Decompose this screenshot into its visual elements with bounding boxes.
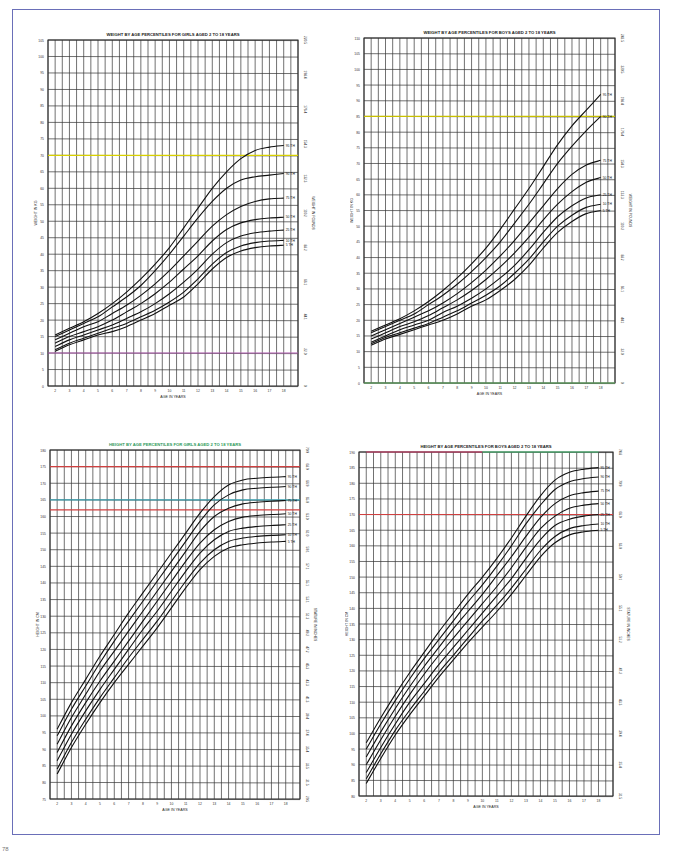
- x-tick-label: 9: [467, 799, 469, 803]
- y-right-tick-label: 88.2: [303, 244, 307, 250]
- chart-boys-weight: WEIGHT BY AGE PERCENTILES FOR BOYS AGED …: [350, 22, 645, 407]
- percentile-label: 10 TH: [603, 202, 613, 206]
- x-tick-label: 15: [553, 799, 557, 803]
- y-right-tick-label: 59.1: [618, 574, 622, 580]
- x-tick-label: 8: [142, 802, 144, 806]
- y-right-tick-label: 154.3: [620, 159, 624, 167]
- y-tick-label: 120: [40, 648, 46, 652]
- x-tick-label: 18: [597, 799, 601, 803]
- x-tick-label: 12: [198, 802, 202, 806]
- y-tick-label: 30: [356, 287, 360, 291]
- y-tick-label: 105: [354, 52, 360, 56]
- percentile-label: 5 TH: [600, 528, 608, 532]
- y-tick-label: 70: [356, 162, 360, 166]
- percentile-label: 95 TH: [600, 466, 610, 470]
- y-right-tick-label: 47.2: [618, 668, 622, 674]
- x-tick-label: 17: [584, 386, 588, 390]
- x-tick-label: 7: [442, 386, 444, 390]
- y-tick-label: 25: [40, 302, 44, 306]
- x-tick-label: 8: [140, 389, 142, 393]
- x-tick-label: 2: [365, 799, 367, 803]
- y-tick-label: 55: [40, 203, 44, 207]
- x-tick-label: 6: [428, 386, 430, 390]
- y-tick-label: 140: [40, 581, 46, 585]
- x-tick-label: 12: [510, 799, 514, 803]
- y-right-tick-label: 176.4: [620, 128, 624, 136]
- y-tick-label: 190: [349, 451, 355, 455]
- y-right-tick-label: 198.4: [303, 71, 307, 79]
- y-right-tick-label: 0: [620, 382, 624, 384]
- x-tick-label: 7: [438, 799, 440, 803]
- x-tick-label: 13: [210, 389, 214, 393]
- chart-girls-weight: WEIGHT BY AGE PERCENTILES FOR GIRLS AGED…: [28, 28, 328, 418]
- y-tick-label: 65: [40, 170, 44, 174]
- x-tick-label: 18: [599, 386, 603, 390]
- y-tick-label: 125: [40, 631, 46, 635]
- x-tick-label: 2: [54, 389, 56, 393]
- percentile-label: 95 TH: [286, 144, 296, 148]
- x-tick-label: 10: [480, 799, 484, 803]
- percentile-label: 10 TH: [286, 239, 296, 243]
- y-right-tick-label: 88.2: [620, 254, 624, 260]
- percentile-label: 5 TH: [603, 209, 611, 213]
- x-tick-label: 16: [253, 389, 257, 393]
- chart-boys-height: HEIGHT BY AGE PERCENTILES FOR BOYS AGED …: [345, 440, 643, 830]
- y-tick-label: 150: [349, 576, 355, 580]
- x-tick-label: 13: [524, 799, 528, 803]
- x-tick-label: 9: [156, 802, 158, 806]
- percentile-label: 50 TH: [600, 502, 610, 506]
- x-tick-label: 11: [498, 386, 502, 390]
- y-right-tick-label: 154.3: [303, 140, 307, 148]
- percentile-label: 90 TH: [603, 115, 613, 119]
- percentile-label: 25 TH: [288, 523, 298, 527]
- y-tick-label: 50: [356, 225, 360, 229]
- y-tick-label: 95: [40, 71, 44, 75]
- x-axis-label: AGE IN YEARS: [160, 395, 186, 399]
- y-tick-label: 40: [356, 256, 360, 260]
- percentile-label: 90 TH: [600, 475, 610, 479]
- y-tick-label: 100: [354, 68, 360, 72]
- y-tick-label: 130: [40, 615, 46, 619]
- y-tick-label: 90: [356, 99, 360, 103]
- y-right-tick-label: 29.5: [305, 796, 309, 802]
- y-right-tick-label: 66.9: [305, 480, 309, 486]
- y-axis-right-label: WEIGHT IN POUNDS: [311, 196, 315, 230]
- x-tick-label: 16: [568, 799, 572, 803]
- x-tick-label: 9: [471, 386, 473, 390]
- y-tick-label: 100: [40, 714, 46, 718]
- y-axis-right-label: STATURE IN INCHES: [313, 608, 317, 642]
- y-right-tick-label: 55.1: [618, 605, 622, 611]
- y-right-tick-label: 57.1: [305, 563, 309, 569]
- percentile-label: 10 TH: [600, 522, 610, 526]
- x-tick-label: 3: [70, 802, 72, 806]
- x-tick-label: 3: [385, 386, 387, 390]
- y-right-tick-label: 176.4: [303, 105, 307, 113]
- y-right-tick-label: 242.5: [620, 34, 624, 42]
- x-tick-label: 5: [413, 386, 415, 390]
- y-tick-label: 35: [356, 272, 360, 276]
- chart-title: WEIGHT BY AGE PERCENTILES FOR GIRLS AGED…: [106, 32, 239, 37]
- x-tick-label: 13: [212, 802, 216, 806]
- x-tick-label: 2: [56, 802, 58, 806]
- y-right-tick-label: 41.3: [305, 696, 309, 702]
- x-tick-label: 3: [68, 389, 70, 393]
- y-tick-label: 115: [41, 665, 47, 669]
- y-right-tick-label: 68.9: [305, 464, 309, 470]
- y-tick-label: 135: [349, 623, 355, 627]
- x-tick-label: 11: [182, 389, 186, 393]
- y-tick-label: 30: [40, 286, 44, 290]
- y-right-tick-label: 63.0: [305, 513, 309, 519]
- y-tick-label: 60: [40, 187, 44, 191]
- x-tick-label: 14: [541, 386, 545, 390]
- x-tick-label: 10: [168, 389, 172, 393]
- y-right-tick-label: 132.3: [620, 191, 624, 199]
- x-tick-label: 14: [225, 389, 229, 393]
- x-tick-label: 3: [380, 799, 382, 803]
- y-tick-label: 110: [41, 681, 47, 685]
- y-tick-label: 90: [40, 88, 44, 92]
- y-tick-label: 170: [349, 513, 355, 517]
- x-tick-label: 5: [409, 799, 411, 803]
- x-axis-label: AGE IN YEARS: [477, 392, 503, 396]
- x-tick-label: 14: [227, 802, 231, 806]
- x-tick-label: 8: [456, 386, 458, 390]
